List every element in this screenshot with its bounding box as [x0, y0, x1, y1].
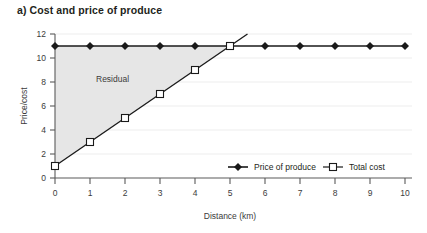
x-tick-label: 2 [123, 188, 128, 198]
residual-annotation: Residual [96, 74, 129, 84]
open-square-icon [330, 164, 337, 171]
y-axis-title: Price/cost [19, 87, 29, 125]
legend-label-price-of-produce: Price of produce [254, 162, 316, 172]
x-tick-label: 10 [400, 188, 410, 198]
y-axis-tick-labels: 12 10 8 6 4 2 0 [37, 29, 47, 183]
legend-label-total-cost: Total cost [349, 162, 386, 172]
x-tick-label: 7 [298, 188, 303, 198]
y-tick-label: 4 [41, 125, 46, 135]
y-tick-label: 6 [41, 101, 46, 111]
y-tick-label: 12 [37, 29, 47, 39]
chart-legend: Price of produce Total cost [228, 162, 386, 172]
y-tick-label: 8 [41, 77, 46, 87]
chart-canvas: Residual 12 10 8 6 4 2 0 Price/cost [0, 0, 427, 233]
x-tick-label: 1 [88, 188, 93, 198]
figure-panel: a) Cost and price of produce Residual [0, 0, 427, 233]
y-axis-ticks [50, 34, 55, 178]
x-axis-tick-labels: 0 1 2 3 4 5 6 7 8 9 10 [53, 188, 410, 198]
y-tick-label: 0 [41, 173, 46, 183]
x-tick-label: 4 [193, 188, 198, 198]
x-axis-ticks [55, 178, 405, 184]
x-tick-label: 6 [263, 188, 268, 198]
y-tick-label: 2 [41, 149, 46, 159]
x-axis-title: Distance (km) [204, 211, 257, 221]
filled-diamond-icon [234, 163, 242, 171]
y-tick-label: 10 [37, 53, 47, 63]
x-tick-label: 3 [158, 188, 163, 198]
x-tick-label: 8 [333, 188, 338, 198]
x-tick-label: 5 [228, 188, 233, 198]
x-tick-label: 9 [368, 188, 373, 198]
x-tick-label: 0 [53, 188, 58, 198]
